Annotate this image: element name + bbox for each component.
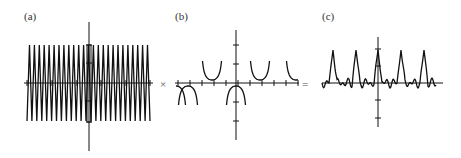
- panel-a-plot: [24, 22, 153, 151]
- panel-b-plot: [175, 30, 299, 140]
- figure-canvas: [0, 0, 461, 158]
- panel-c-plot: [322, 37, 443, 127]
- product-wave: [322, 50, 436, 88]
